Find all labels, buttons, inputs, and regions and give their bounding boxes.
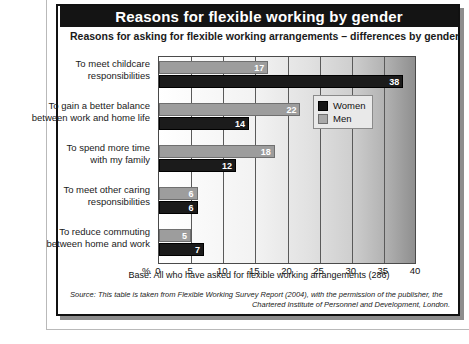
chart-area: To meet childcare responsibilities To ga… (66, 50, 452, 272)
category-label-other-caring: To meet other caring responsibilities (0, 184, 150, 207)
page-edge-left (46, 0, 47, 330)
bar-value: 7 (195, 245, 200, 254)
base-note: Base: All who have asked for flexible wo… (66, 270, 452, 280)
chart-panel: Reasons for flexible working by gender R… (56, 4, 460, 316)
legend-item-women: Women (318, 99, 366, 112)
source-line-2: Chartered Institute of Personnel and Dev… (70, 300, 450, 310)
page-root: Reasons for flexible working by gender R… (0, 0, 469, 344)
bar-women-family: 12 (159, 159, 236, 172)
bar-value: 38 (389, 77, 399, 86)
plot-area: 17 38 22 14 18 12 6 (158, 56, 416, 264)
category-label-line2: responsibilities (0, 196, 150, 208)
bar-women-balance: 14 (159, 117, 249, 130)
bar-value: 14 (235, 119, 245, 128)
bar-value: 6 (189, 189, 194, 198)
source-note: Source: This table is taken from Flexibl… (70, 290, 450, 310)
category-axis-labels: To meet childcare responsibilities To ga… (66, 56, 154, 264)
category-label-line2: responsibilities (0, 70, 150, 82)
bar-value: 12 (222, 161, 232, 170)
category-label-line1: To gain a better balance (0, 100, 150, 112)
chart-subtitle: Reasons for asking for flexible working … (70, 30, 452, 42)
bar-men-balance: 22 (159, 103, 300, 116)
bar-men-other-caring: 6 (159, 187, 198, 200)
category-label-line2: between work and home life (0, 112, 150, 124)
bar-value: 17 (254, 63, 264, 72)
category-label-line1: To meet other caring (0, 184, 150, 196)
bar-value: 18 (261, 147, 271, 156)
bar-value: 5 (182, 231, 187, 240)
category-label-line1: To meet childcare (0, 58, 150, 70)
legend-swatch-men (318, 114, 328, 124)
bar-men-commuting: 5 (159, 229, 191, 242)
category-label-balance: To gain a better balance between work an… (0, 100, 150, 123)
category-label-family: To spend more time with my family (0, 142, 150, 165)
bar-men-family: 18 (159, 145, 275, 158)
category-label-line1: To reduce commuting (0, 226, 150, 238)
legend-label-women: Women (333, 100, 366, 111)
bar-women-childcare: 38 (159, 75, 403, 88)
category-label-commuting: To reduce commuting between home and wor… (0, 226, 150, 249)
legend-swatch-women (318, 101, 328, 111)
bar-value: 22 (286, 105, 296, 114)
legend: Women Men (313, 95, 373, 129)
legend-item-men: Men (318, 112, 366, 125)
category-label-line1: To spend more time (0, 142, 150, 154)
bar-women-commuting: 7 (159, 243, 204, 256)
category-label-childcare: To meet childcare responsibilities (0, 58, 150, 81)
bar-men-childcare: 17 (159, 61, 268, 74)
category-label-line2: between home and work (0, 238, 150, 250)
bar-value: 6 (189, 203, 194, 212)
category-label-line2: with my family (0, 154, 150, 166)
page-title: Reasons for flexible working by gender (60, 6, 458, 27)
page-edge-bottom (46, 329, 469, 330)
bar-women-other-caring: 6 (159, 201, 198, 214)
legend-label-men: Men (333, 113, 351, 124)
source-line-1: Source: This table is taken from Flexibl… (70, 290, 450, 300)
